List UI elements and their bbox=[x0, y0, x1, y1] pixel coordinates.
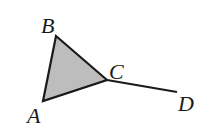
geometry-figure: B A C D bbox=[0, 0, 200, 126]
label-b: B bbox=[41, 13, 54, 38]
label-d: D bbox=[177, 91, 194, 116]
label-c: C bbox=[109, 59, 124, 84]
triangle-abc bbox=[43, 36, 107, 101]
diagram-canvas: B A C D bbox=[0, 0, 200, 126]
label-a: A bbox=[25, 103, 41, 126]
